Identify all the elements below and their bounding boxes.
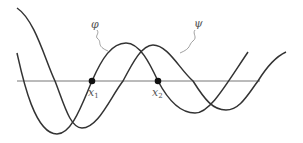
curve-phi: [17, 43, 248, 134]
psi-label: ψ: [194, 17, 203, 30]
phi-label: φ: [91, 18, 99, 31]
intersection-point-x2: [155, 78, 162, 85]
diagram-canvas: φ ψ x1 x2: [0, 0, 303, 143]
intersection-point-x1: [89, 78, 96, 85]
psi-pointer-arrow: [180, 30, 195, 53]
phi-pointer-arrow: [97, 30, 108, 51]
x2-label: x2: [152, 86, 163, 100]
x1-label: x1: [88, 86, 99, 100]
